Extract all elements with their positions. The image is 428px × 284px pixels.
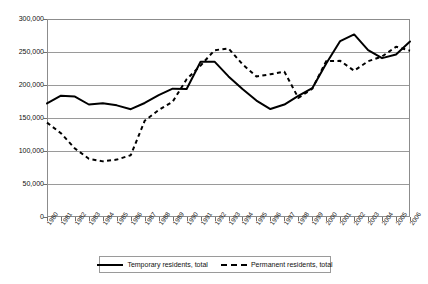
legend-label: Temporary residents, total (127, 261, 208, 268)
x-axis-tick-mark (61, 217, 62, 221)
x-axis-tick-mark (368, 217, 369, 221)
x-axis-tick-label: 1983 (88, 211, 102, 227)
x-axis-tick-mark (47, 217, 48, 221)
x-axis-tick-mark (396, 217, 397, 221)
x-axis-tick-label: 1980 (46, 211, 60, 227)
x-axis-tick-label: 2002 (353, 211, 367, 227)
x-axis-tick-label: 1989 (172, 211, 186, 227)
x-axis-tick-label: 1988 (158, 211, 172, 227)
x-axis-tick-mark (145, 217, 146, 221)
x-axis-tick-label: 1994 (241, 211, 255, 227)
x-axis-tick-mark (173, 217, 174, 221)
x-axis-tick-mark (242, 217, 243, 221)
x-axis-tick-mark (159, 217, 160, 221)
x-axis-tick-mark (326, 217, 327, 221)
x-axis-tick-label: 1991 (200, 211, 214, 227)
x-axis-tick-label: 2000 (325, 211, 339, 227)
x-axis-tick-label: 1985 (116, 211, 130, 227)
x-axis-tick-mark (131, 217, 132, 221)
x-axis-tick-mark (270, 217, 271, 221)
x-axis-tick-label: 1992 (214, 211, 228, 227)
x-axis-tick-mark (229, 217, 230, 221)
x-axis-tick-mark (103, 217, 104, 221)
legend-item-temporary-residents: Temporary residents, total (97, 261, 208, 268)
x-axis-tick-label: 1986 (130, 211, 144, 227)
legend-swatch-solid-icon (97, 264, 123, 266)
x-axis-tick-label: 1984 (102, 211, 116, 227)
x-axis-tick-label: 2001 (339, 211, 353, 227)
x-axis-tick-mark (340, 217, 341, 221)
legend-swatch-dashed-icon (221, 264, 247, 266)
line-chart: 300,000250,000200,000150,000100,00050,00… (0, 0, 428, 284)
x-axis-tick-label: 2004 (381, 211, 395, 227)
x-axis-tick-label: 1993 (228, 211, 242, 227)
x-axis-tick-label: 2005 (395, 211, 409, 227)
x-axis-tick-mark (117, 217, 118, 221)
x-axis-tick-mark (312, 217, 313, 221)
x-axis-tick-label: 1982 (74, 211, 88, 227)
x-axis-tick-mark (89, 217, 90, 221)
x-axis-tick-mark (187, 217, 188, 221)
legend-item-permanent-residents: Permanent residents, total (221, 261, 333, 268)
x-axis-tick-label: 1996 (269, 211, 283, 227)
x-axis-tick-label: 1999 (311, 211, 325, 227)
x-axis-tick-label: 1981 (60, 211, 74, 227)
x-axis-tick-mark (410, 217, 411, 221)
x-axis-tick-label: 1998 (297, 211, 311, 227)
x-axis-tick-mark (75, 217, 76, 221)
x-axis-tick-label: 2006 (409, 211, 423, 227)
x-axis-tick-mark (382, 217, 383, 221)
x-axis-tick-mark (354, 217, 355, 221)
legend-label: Permanent residents, total (251, 261, 333, 268)
x-axis-tick-label: 1997 (283, 211, 297, 227)
chart-legend: Temporary residents, total Permanent res… (99, 256, 331, 273)
x-axis-tick-label: 1987 (144, 211, 158, 227)
x-axis-tick-mark (256, 217, 257, 221)
x-axis-tick-label: 1995 (255, 211, 269, 227)
x-axis: 1980198119821983198419851986198719881989… (0, 0, 428, 284)
x-axis-tick-mark (215, 217, 216, 221)
x-axis-tick-mark (201, 217, 202, 221)
x-axis-tick-label: 1990 (186, 211, 200, 227)
x-axis-tick-mark (298, 217, 299, 221)
x-axis-tick-mark (284, 217, 285, 221)
x-axis-tick-label: 2003 (367, 211, 381, 227)
